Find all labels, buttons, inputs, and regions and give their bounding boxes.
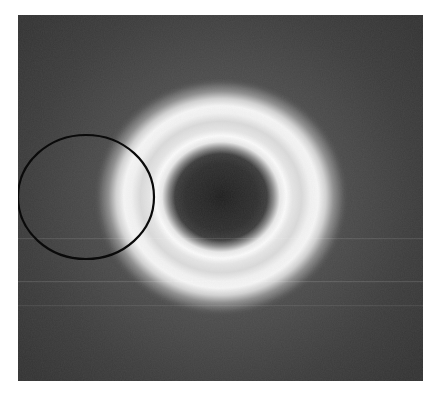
noise-overlay xyxy=(18,15,423,381)
diffraction-image-panel xyxy=(18,15,423,381)
diffraction-pattern xyxy=(18,15,423,381)
